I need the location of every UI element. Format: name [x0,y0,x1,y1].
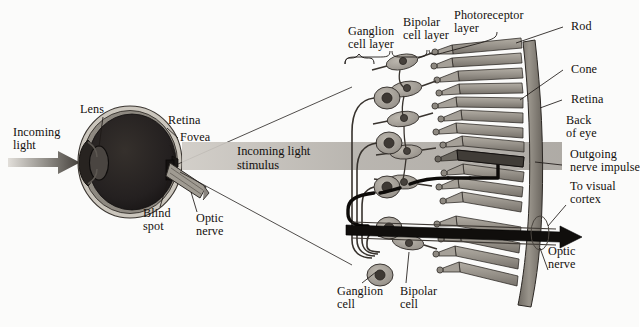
label-back-of-eye: Back of eye [566,114,597,140]
ganglion-cell [367,264,393,286]
label-rod: Rod [571,20,592,33]
photoreceptor [438,110,523,123]
label-blind-spot: Blind spot [143,207,171,233]
incoming-light-arrow [8,151,80,174]
label-retina-detail: Retina [571,93,603,106]
brace-ganglion-cell-layer [345,54,374,64]
label-bipolar-cell-layer: Bipolar cell layer [403,16,449,42]
leader-to-visual-cortex [548,205,566,226]
label-incoming-light-stimulus: Incoming light stimulus [237,144,310,172]
label-photoreceptor-layer: Photoreceptor layer [454,9,524,35]
ganglion-cell [374,87,400,109]
leader-retina-detail [540,100,562,108]
bipolar-cell [372,51,432,72]
label-lens: Lens [80,103,104,116]
brace-ganglion-cell-layer-wide [345,51,390,64]
label-outgoing-nerve-impulse: Outgoing nerve impulse [570,148,640,174]
photoreceptor [434,68,523,83]
label-to-visual-cortex: To visual cortex [570,180,616,206]
ganglion-cell [376,132,402,154]
label-retina-eye: Retina [168,114,200,127]
label-optic-nerve-eye: Optic nerve [196,212,224,238]
label-optic-nerve-detail: Optic nerve [548,245,576,271]
label-fovea: Fovea [180,131,210,144]
photoreceptor [436,178,523,197]
label-ganglion-cell-layer: Ganglion cell layer [348,25,394,51]
label-bipolar-cell: Bipolar cell [400,285,437,311]
leader-optic-nerve-detail [540,248,548,270]
lens [90,146,109,180]
photoreceptor [432,97,523,109]
ganglion-cell [374,176,400,198]
leader-bipolar-cell-bottom [406,252,409,283]
photoreceptor [431,53,522,69]
label-cone: Cone [571,63,597,76]
photoreceptor [436,83,523,96]
photoreceptor [433,123,523,138]
label-ganglion-cell: Ganglion cell [337,285,383,311]
label-incoming-light: Incoming light [13,126,61,152]
